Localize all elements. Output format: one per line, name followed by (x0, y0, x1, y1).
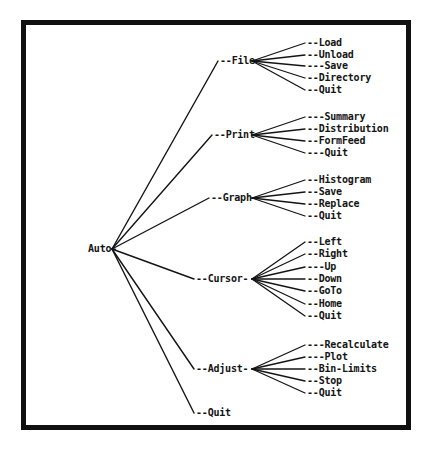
tree-node-branch-print[interactable]: --Print- (214, 130, 261, 140)
tree-leaf-graph-quit[interactable]: --Quit (307, 211, 342, 221)
tree-leaf-cursor-down[interactable]: --Down (307, 274, 342, 284)
menu-tree-diagram: Auto---File---Load--Unload---Save--Direc… (0, 0, 438, 461)
tree-leaf-print-quit[interactable]: ---Quit (307, 148, 348, 158)
tree-connector-lines (0, 0, 438, 461)
leaf-line-cursor-1 (252, 254, 305, 279)
tree-leaf-adjust-plot[interactable]: ---Plot (307, 352, 348, 362)
tree-leaf-file-unload[interactable]: --Unload (307, 50, 354, 60)
tree-leaf-cursor-right[interactable]: --Right (307, 249, 348, 259)
trunk-line-print (112, 135, 212, 249)
leaf-line-adjust-0 (252, 345, 305, 369)
tree-leaf-print-distribution[interactable]: --Distribution (307, 124, 389, 134)
tree-leaf-print-summary[interactable]: ---Summary (307, 112, 365, 122)
tree-leaf-graph-replace[interactable]: --Replace (307, 199, 359, 209)
tree-leaf-cursor-left[interactable]: --Left (307, 237, 342, 247)
tree-leaf-file-quit[interactable]: --Quit (307, 85, 342, 95)
tree-leaf-adjust-stop[interactable]: --Stop (307, 376, 342, 386)
leaf-line-adjust-4 (252, 369, 305, 393)
tree-leaf-cursor-up[interactable]: ---Up (307, 262, 336, 272)
leaf-line-cursor-5 (252, 279, 305, 304)
tree-leaf-file-save[interactable]: ---Save (307, 61, 348, 71)
tree-leaf-cursor-quit[interactable]: --Quit (307, 311, 342, 321)
tree-node-branch-file[interactable]: --File- (220, 56, 261, 66)
tree-leaf-adjust-recalculate[interactable]: ---Recalculate (307, 340, 389, 350)
tree-leaf-adjust-bin-limits[interactable]: --Bin-Limits (307, 364, 377, 374)
tree-leaf-adjust-quit[interactable]: --Quit (307, 388, 342, 398)
tree-node-branch-quit[interactable]: --Quit (196, 408, 231, 418)
tree-node-branch-graph[interactable]: --Graph- (211, 193, 258, 203)
leaf-line-adjust-3 (252, 369, 305, 381)
tree-node-branch-adjust[interactable]: --Adjust- (196, 364, 248, 374)
tree-leaf-file-load[interactable]: --Load (307, 38, 342, 48)
trunk-line-quit (112, 249, 194, 413)
tree-node-branch-cursor[interactable]: --Cursor- (196, 274, 248, 284)
leaf-line-adjust-1 (252, 357, 305, 369)
tree-leaf-cursor-goto[interactable]: --GoTo (307, 286, 342, 296)
tree-node-root-auto[interactable]: Auto- (88, 244, 117, 254)
tree-leaf-graph-histogram[interactable]: --Histogram (307, 175, 371, 185)
trunk-line-adjust (112, 249, 194, 369)
tree-leaf-file-directory[interactable]: --Directory (307, 73, 371, 83)
tree-leaf-print-formfeed[interactable]: --FormFeed (307, 136, 365, 146)
tree-leaf-graph-save[interactable]: --Save (307, 187, 342, 197)
tree-leaf-cursor-home[interactable]: --Home (307, 299, 342, 309)
